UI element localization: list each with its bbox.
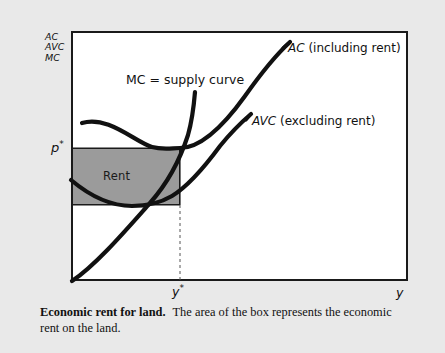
economics-figure: Rent AC AVC MC y p* y* AC (including ren… [0, 0, 445, 353]
avc-curve-label-text: (excluding rent) [276, 114, 375, 128]
quantity-tick-label: y* [172, 283, 184, 299]
price-tick-star: * [59, 139, 64, 149]
rent-area-label: Rent [103, 169, 130, 183]
ac-curve-label-symbol: AC [288, 41, 305, 55]
y-axis-label-avc: AVC [45, 42, 64, 52]
avc-curve-label-symbol: AVC [252, 114, 276, 128]
price-tick-label: p* [51, 139, 64, 155]
x-axis-label: y [396, 285, 403, 300]
ac-curve-label-text: (including rent) [305, 41, 401, 55]
y-axis-label-stack: AC AVC MC [45, 32, 64, 63]
quantity-tick-star: * [179, 283, 184, 293]
mc-curve-label: MC = supply curve [126, 72, 244, 87]
figure-caption: Economic rent for land.The area of the b… [40, 304, 412, 337]
ac-curve-label: AC (including rent) [288, 41, 401, 55]
y-axis-label-mc: MC [45, 53, 64, 63]
figure-caption-title: Economic rent for land. [40, 305, 166, 319]
avc-curve-label: AVC (excluding rent) [252, 114, 375, 128]
